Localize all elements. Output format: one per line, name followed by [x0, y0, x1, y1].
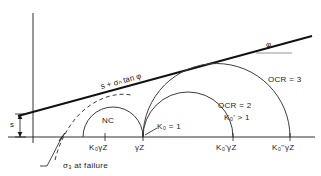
- sigma3-failure-leader: [40, 137, 62, 166]
- friction-angle-label: φ: [266, 40, 272, 49]
- k0-equals-one-leader: [145, 128, 157, 135]
- nc-circle-label: NC: [102, 116, 114, 125]
- ocr2-k0-label: K₀' > 1: [224, 113, 250, 122]
- axis-label-k0-gamma-z: K₀γZ: [89, 143, 108, 152]
- axis-label-gamma-z: γZ: [135, 143, 145, 152]
- axis-label-k0-double-prime-gamma-z: K₀''γZ: [272, 143, 294, 152]
- k0-equals-one-label: K₀ = 1: [157, 122, 181, 131]
- sigma3-at-failure-label: σ₃ at failure: [63, 161, 108, 170]
- cohesion-label: s: [10, 120, 14, 129]
- axis-label-k0-prime-gamma-z: K₀'γZ: [216, 143, 237, 152]
- mohr-circle-figure: s + σₙ tan φ φ s NC K₀ = 1 OCR = 2 K₀' >…: [0, 0, 321, 176]
- ocr2-label: OCR = 2: [218, 101, 251, 110]
- cohesion-arrowhead-down: [18, 132, 23, 137]
- ocr3-label: OCR = 3: [268, 75, 301, 84]
